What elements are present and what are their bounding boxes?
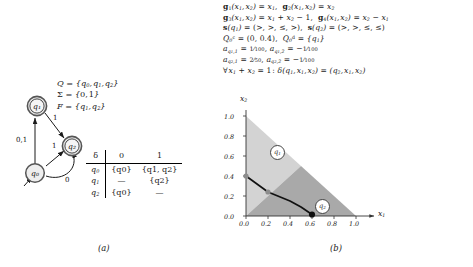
- state-q1-label: q₁: [33, 102, 41, 111]
- table-header-row: δ 0 1: [86, 150, 182, 163]
- formula-line-g1-g2: g1(x1, x2) = x1, g2(x1, x2) = x2: [223, 2, 471, 13]
- definition-F: F = {q1, q2}: [57, 101, 119, 112]
- signature-q2-value: (>, >, ≤, ≤): [338, 23, 385, 32]
- formula-line-a-q1: aq1,1 = 1⁄100, aq1,2 = −1⁄100: [223, 44, 471, 55]
- x-tick-label-4: 0.8: [327, 220, 337, 228]
- a-q1-2-den: 100: [308, 46, 318, 52]
- caption-b: (b): [330, 243, 342, 253]
- y-axis-label: x2: [240, 94, 247, 103]
- table-cell-q0-1: {q1, q2}: [137, 163, 183, 175]
- q0c-value: (0, 0.4): [247, 34, 275, 43]
- trajectory-start-marker: [243, 173, 248, 178]
- edge-label-q1-to-q2: 1: [53, 114, 57, 122]
- formula-line-delta-rule: ∀ x1 + x2 = 1 : δ(q1, x1, x2) = (q2, x1,…: [223, 66, 471, 77]
- x-axis-label: x1: [378, 209, 385, 218]
- y-tick-label-5: 1.0: [224, 113, 234, 121]
- x-tick-label-1: 0.2: [261, 220, 271, 228]
- definition-Q: Q = {q0, q1, q2}: [57, 78, 119, 89]
- edge-label-q2-to-q0: 0: [65, 176, 69, 184]
- table-cell-q1-1: {q2}: [137, 175, 183, 187]
- table-row-label-q1: q1: [86, 175, 106, 187]
- formula-line-a-q2: aq2,1 = 2⁄50, aq2,2 = −1⁄100: [223, 55, 471, 66]
- formula-line-initial-sets: Q0c = (0, 0.4), Q0d = {q1}: [223, 34, 471, 45]
- edge-label-q0-to-q1: 0,1: [16, 136, 27, 144]
- table-cell-q2-0: {q0}: [106, 187, 137, 199]
- y-tick-label-1: 0.2: [224, 193, 234, 201]
- trajectory-switch-marker: [265, 189, 270, 194]
- y-tick-label-0: 0.0: [224, 213, 234, 221]
- x-tick-label-5: 1.0: [349, 220, 359, 228]
- formula-block: g1(x1, x2) = x1, g2(x1, x2) = x2 g3(x1, …: [223, 2, 471, 76]
- figure-page: g1(x1, x2) = x1, g2(x1, x2) = x2 g3(x1, …: [0, 0, 473, 267]
- table-row: q1 — {q2}: [86, 175, 182, 187]
- table-col-header-0: 0: [106, 150, 137, 163]
- a-q2-1-den: 50: [255, 57, 262, 63]
- a-q1-1-den: 100: [255, 46, 265, 52]
- table-cell-q1-0: —: [106, 175, 137, 187]
- caption-a: (a): [98, 243, 110, 253]
- region-label-q1: q1: [270, 145, 285, 160]
- x-tick-label-0: 0.0: [239, 220, 249, 228]
- state-q0-label: q₀: [31, 169, 39, 178]
- table-cell-q2-1: —: [137, 187, 183, 199]
- table-corner-cell: δ: [86, 150, 106, 163]
- phase-plot-svg: [222, 96, 432, 236]
- y-tick-label-4: 0.8: [224, 133, 234, 141]
- table-row-label-q0: q0: [86, 163, 106, 175]
- edge-q0-to-q2: [46, 151, 64, 166]
- region-label-q2: q2: [315, 199, 330, 214]
- transition-table: δ 0 1 q0 {q0} {q1, q2} q1 — {q2} q2 {q0}…: [86, 150, 182, 198]
- trajectory-end-marker: [309, 211, 315, 217]
- table-row: q0 {q0} {q1, q2}: [86, 163, 182, 175]
- table-col-header-1: 1: [137, 150, 183, 163]
- formula-line-signatures: s(q1) = (>, >, ≤, >), s(q2) = (>, >, ≤, …: [223, 23, 471, 34]
- definition-Sigma: Σ = {0, 1}: [57, 89, 119, 100]
- a-q2-2-den: 100: [305, 57, 315, 63]
- y-tick-label-3: 0.6: [224, 153, 234, 161]
- formula-line-g3-g4: g3(x1, x2) = x1 + x2 − 1, g4(x1, x2) = x…: [223, 13, 471, 24]
- x-tick-label-3: 0.6: [305, 220, 315, 228]
- signature-q1-value: (>, >, ≤, >): [253, 23, 300, 32]
- set-definitions: Q = {q0, q1, q2} Σ = {0, 1} F = {q1, q2}: [57, 78, 119, 112]
- table-cell-q0-0: {q0}: [106, 163, 137, 175]
- state-q2-label: q₂: [68, 142, 76, 151]
- table-row-label-q2: q2: [86, 187, 106, 199]
- x-tick-label-2: 0.4: [283, 220, 293, 228]
- edge-label-q0-to-q2: 1: [52, 142, 56, 150]
- phase-plot: x2 x1 0.0 0.2 0.4 0.6 0.8 1.0 0.0 0.2 0.…: [222, 96, 432, 236]
- y-tick-label-2: 0.4: [224, 173, 234, 181]
- table-row: q2 {q0} —: [86, 187, 182, 199]
